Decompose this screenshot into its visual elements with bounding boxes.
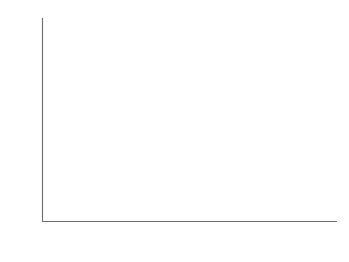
chart-plot-area: [0, 0, 349, 262]
chart-figure: [0, 0, 349, 262]
